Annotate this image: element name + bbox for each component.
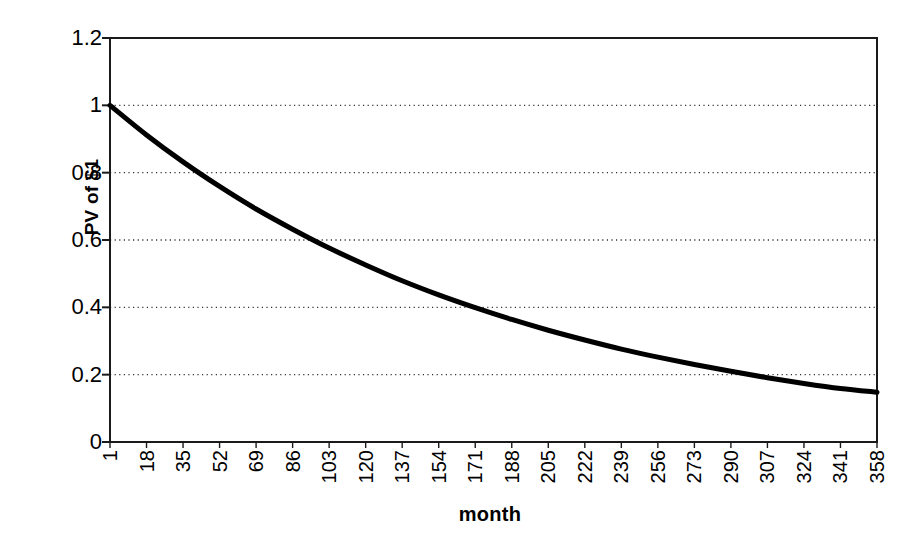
- x-axis-tick-label: 171: [465, 450, 485, 540]
- x-axis-tick-label: 188: [502, 450, 522, 540]
- x-axis-tick-label: 239: [611, 450, 631, 540]
- x-axis-tick-label: 1: [100, 450, 120, 540]
- x-axis-title: month: [0, 503, 914, 526]
- x-axis-tick-label: 290: [721, 450, 741, 540]
- x-axis-tick-label: 205: [538, 450, 558, 540]
- x-axis-tick-label: 256: [648, 450, 668, 540]
- x-axis-tick-label: 18: [137, 450, 157, 540]
- x-axis-tick-label: 137: [392, 450, 412, 540]
- x-axis-tick-label: 69: [246, 450, 266, 540]
- x-axis-tick-label: 86: [283, 450, 303, 540]
- x-axis-tick-label: 307: [757, 450, 777, 540]
- x-axis-tick-label: 273: [684, 450, 704, 540]
- x-axis-tick-label: 341: [830, 450, 850, 540]
- x-axis-tick-label: 324: [794, 450, 814, 540]
- x-axis-tick-label: 120: [356, 450, 376, 540]
- x-axis-tick-label: 52: [210, 450, 230, 540]
- x-axis-tick-label: 35: [173, 450, 193, 540]
- x-axis-tick-label: 358: [867, 450, 887, 540]
- x-axis-tick-labels: 1183552698610312013715417118820522223925…: [0, 0, 914, 547]
- x-axis-tick-label: 103: [319, 450, 339, 540]
- x-axis-tick-label: 222: [575, 450, 595, 540]
- chart-container: PV of $1 1.210.80.60.40.20 1183552698610…: [0, 0, 914, 547]
- x-axis-tick-label: 154: [429, 450, 449, 540]
